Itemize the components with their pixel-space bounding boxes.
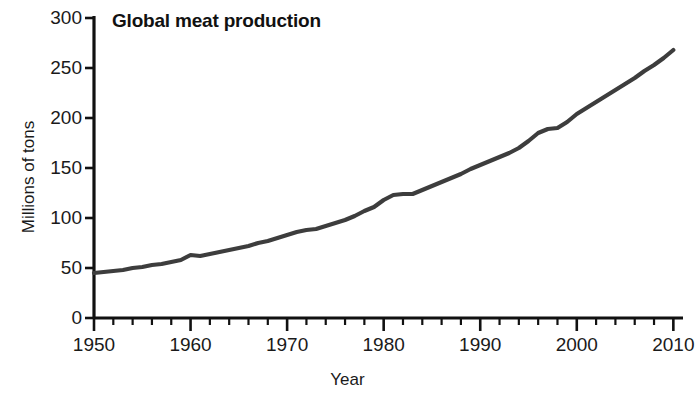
- plot-area: [0, 0, 695, 399]
- x-axis-major-ticks: [94, 318, 673, 331]
- data-series-line: [94, 50, 673, 273]
- chart-figure: Global meat production Millions of tons …: [0, 0, 695, 399]
- axis-lines: [93, 16, 683, 318]
